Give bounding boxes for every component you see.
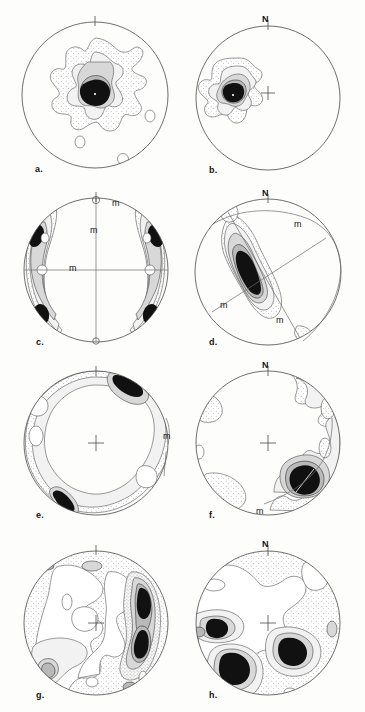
panel-g	[24, 545, 168, 695]
contour-a-satellite-1	[145, 110, 155, 122]
contour-h-low-ne	[302, 562, 329, 591]
mirror-label-d-1: m	[294, 219, 302, 229]
contour-d-lobe-sse	[295, 326, 314, 344]
mirror-label-f: m	[256, 506, 264, 516]
contour-f-west-lobe-sw	[203, 473, 246, 510]
panel-label-g: g.	[36, 690, 44, 700]
mirror-label-d-2: m	[220, 300, 228, 310]
contour-f-small-lobe-w	[194, 445, 204, 459]
contour-e-low-west	[29, 426, 43, 446]
contour-h-s-small	[284, 688, 296, 696]
contour-g-central-blank	[72, 607, 98, 632]
pole-figure-canvas	[0, 0, 365, 712]
north-label-h: N	[262, 539, 269, 549]
contour-h-west-satellite	[193, 627, 205, 637]
contour-g-n-lobe	[82, 561, 102, 571]
mirror-label-c-3: m	[69, 263, 77, 273]
mirror-label-c-2: m	[90, 225, 98, 235]
panel-f	[194, 366, 343, 515]
contour-f-small-lobe-e1	[321, 397, 335, 419]
mirror-label-e: m	[163, 431, 171, 441]
panel-h	[192, 545, 340, 704]
contour-e-low-se	[136, 466, 157, 488]
mirror-label-c-1: m	[112, 198, 120, 208]
panel-e	[24, 366, 172, 515]
north-label-d: N	[262, 188, 269, 198]
panel-label-c: c.	[36, 337, 44, 347]
panel-c	[24, 192, 168, 344]
contour-h-ssw-satellite	[218, 692, 236, 704]
panel-b	[196, 20, 340, 170]
contour-a-satellite-2	[75, 136, 85, 148]
panel-label-a: a.	[35, 164, 43, 174]
contour-e-girdle-outer	[25, 371, 172, 513]
north-label-b: N	[262, 14, 269, 24]
panel-label-b: b.	[209, 165, 217, 175]
panel-label-e: e.	[36, 510, 44, 520]
panel-label-d: d.	[209, 337, 217, 347]
contour-g-s-small	[86, 677, 98, 687]
contour-a-satellite-3	[118, 154, 129, 165]
panel-label-f: f.	[209, 510, 215, 520]
mirror-label-d-3: m	[276, 315, 284, 325]
contour-b-maximum	[223, 83, 244, 102]
contour-h-e-small	[327, 621, 337, 637]
contour-g-sw-core	[42, 663, 55, 678]
contour-f-maximum	[290, 465, 320, 494]
north-label-f: N	[262, 360, 269, 370]
panel-label-h: h.	[209, 690, 217, 700]
panel-a	[22, 16, 168, 168]
contour-f-west-lobe-nw	[194, 394, 222, 423]
pole-figure-plate: a. b. c. d. e. f. g. h. N N N N m m m m …	[0, 0, 365, 712]
panel-d	[195, 194, 341, 345]
contour-f-small-lobe-e2	[319, 438, 331, 458]
